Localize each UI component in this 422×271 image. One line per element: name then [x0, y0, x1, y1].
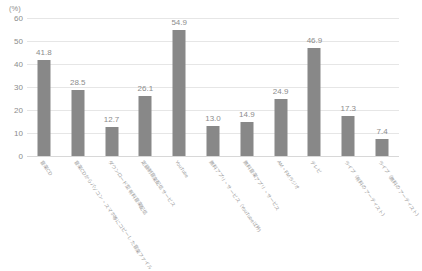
- y-axis-tick-label: 60: [14, 14, 23, 23]
- bar-value-label: 54.9: [171, 18, 187, 27]
- x-axis-tick-label: テレビ: [310, 159, 324, 175]
- x-axis-label-slot: ライブ（無料のアーティスト）: [365, 157, 399, 261]
- x-axis-label-slot: AM・FMラジオ: [264, 157, 298, 261]
- bar[interactable]: [240, 122, 253, 156]
- bar-value-label: 13.0: [205, 114, 221, 123]
- bar-value-label: 41.8: [36, 48, 52, 57]
- y-axis-unit-label: (%): [9, 4, 21, 13]
- x-axis-label-slot: テレビ: [298, 157, 332, 261]
- bar[interactable]: [206, 126, 219, 156]
- bar[interactable]: [139, 96, 152, 156]
- bar[interactable]: [173, 30, 186, 156]
- bar[interactable]: [308, 48, 321, 156]
- bar[interactable]: [376, 139, 389, 156]
- bar-value-label: 24.9: [273, 87, 289, 96]
- x-axis-label-slot: ライブ（有料のアーティスト）: [331, 157, 365, 261]
- bar-value-label: 14.9: [239, 110, 255, 119]
- x-axis-label-slot: 定額制音楽配信サービス: [128, 157, 162, 261]
- x-axis-labels: 音楽CD音楽CDからパソコン・スマホ等にコピーした音楽ファイルダウンロード型有料…: [27, 157, 399, 261]
- plot-area: 0102030405060 41.828.512.726.154.913.014…: [27, 18, 399, 156]
- bar-slot: 28.5: [61, 18, 95, 156]
- y-axis-tick-label: 10: [14, 129, 23, 138]
- x-axis-tick-label: 音楽CD: [39, 159, 54, 177]
- bar[interactable]: [274, 99, 287, 156]
- y-axis-tick-label: 40: [14, 60, 23, 69]
- bar[interactable]: [105, 127, 118, 156]
- bar-value-label: 7.4: [377, 127, 388, 136]
- bar[interactable]: [71, 90, 84, 156]
- x-axis-label-slot: 音楽CD: [27, 157, 61, 261]
- bar[interactable]: [37, 60, 50, 156]
- y-axis-tick-label: 0: [19, 152, 23, 161]
- x-axis-tick-label: YouTube: [174, 159, 190, 179]
- x-axis-label-slot: 無料音楽アプリ・サービス: [230, 157, 264, 261]
- bar-value-label: 28.5: [70, 78, 86, 87]
- bar-value-label: 26.1: [138, 84, 154, 93]
- bar-slot: 14.9: [230, 18, 264, 156]
- bar-slot: 26.1: [128, 18, 162, 156]
- bar-value-label: 17.3: [340, 104, 356, 113]
- x-axis-label-slot: YouTube: [162, 157, 196, 261]
- x-axis-label-slot: 音楽CDからパソコン・スマホ等にコピーした音楽ファイル: [61, 157, 95, 261]
- x-axis-tick-label: ライブ（無料のアーティスト）: [377, 159, 422, 220]
- bar-value-label: 46.9: [307, 36, 323, 45]
- bar-slot: 54.9: [162, 18, 196, 156]
- bar-slot: 13.0: [196, 18, 230, 156]
- bar-slot: 41.8: [27, 18, 61, 156]
- bar[interactable]: [342, 116, 355, 156]
- bar-slot: 7.4: [365, 18, 399, 156]
- bar-slot: 12.7: [95, 18, 129, 156]
- bar-slot: 17.3: [331, 18, 365, 156]
- y-axis-tick-label: 30: [14, 83, 23, 92]
- y-axis-tick-label: 50: [14, 37, 23, 46]
- bar-value-label: 12.7: [104, 115, 120, 124]
- y-axis-tick-label: 20: [14, 106, 23, 115]
- x-axis-label-slot: 無料アプリ・サービス（YouTube以外）: [196, 157, 230, 261]
- bar-series: 41.828.512.726.154.913.014.924.946.917.3…: [27, 18, 399, 156]
- bar-slot: 46.9: [298, 18, 332, 156]
- bar-slot: 24.9: [264, 18, 298, 156]
- x-axis-label-slot: ダウンロード型有料音楽配信: [95, 157, 129, 261]
